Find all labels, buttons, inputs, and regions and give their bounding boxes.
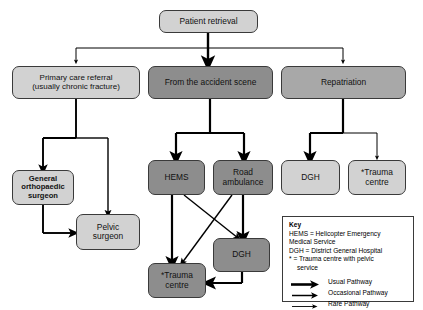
node-label: DGH xyxy=(232,250,251,259)
node-label: General orthopaedic surgeon xyxy=(21,175,64,201)
node-label: Pelvic surgeon xyxy=(93,223,123,242)
edge-accident-scene-split xyxy=(176,99,244,158)
key-line-hems-cont: Medical Service xyxy=(289,238,408,247)
flowchart-canvas: Patient retrieval Primary care referral … xyxy=(0,0,423,310)
node-label-line3: surgeon xyxy=(28,191,58,200)
node-dgh-repatriation[interactable]: DGH xyxy=(281,160,340,195)
key-line-asterisk-cont: service xyxy=(289,264,408,273)
node-hems[interactable]: HEMS xyxy=(148,160,205,195)
node-label-line2: centre xyxy=(165,280,188,290)
node-label: HEMS xyxy=(164,173,188,182)
edge-distributor-bar xyxy=(76,48,343,62)
legend-row-usual: Usual Pathway xyxy=(289,276,408,287)
node-label: *Trauma centre xyxy=(361,168,393,187)
node-label-line2: centre xyxy=(365,177,388,187)
node-repatriation[interactable]: Repatriation xyxy=(281,66,406,99)
legend-row-occasional: Occasional Pathway xyxy=(289,287,408,298)
node-label: Patient retrieval xyxy=(179,17,237,26)
node-dgh-lower[interactable]: DGH xyxy=(213,238,270,272)
node-pelvic-surgeon[interactable]: Pelvic surgeon xyxy=(76,214,140,250)
usual-pathway-arrow-icon xyxy=(289,276,323,287)
legend-label-usual: Usual Pathway xyxy=(323,278,372,285)
node-label: *Trauma centre xyxy=(161,271,193,290)
node-trauma-centre-lower[interactable]: *Trauma centre xyxy=(148,263,206,298)
node-road-ambulance[interactable]: Road ambulance xyxy=(213,160,273,195)
key-line-asterisk: * = Trauma centre with pelvic xyxy=(289,255,408,264)
node-trauma-centre-repatriation[interactable]: *Trauma centre xyxy=(348,160,406,195)
node-patient-retrieval[interactable]: Patient retrieval xyxy=(159,10,258,33)
node-from-the-accident-scene[interactable]: From the accident scene xyxy=(148,66,273,99)
legend-rows: Usual Pathway Occasional Pathway xyxy=(289,276,408,309)
node-label: From the accident scene xyxy=(165,78,257,87)
key-line-dgh: DGH = District General Hospital xyxy=(289,247,408,256)
node-label-line1: Primary care referral xyxy=(40,73,113,82)
node-label: Repatriation xyxy=(321,78,366,87)
key-line-hems: HEMS = Helicopter Emergency xyxy=(289,230,408,239)
key-legend-box: Key HEMS = Helicopter Emergency Medical … xyxy=(282,216,414,302)
node-label-line2: (usually chronic fracture) xyxy=(32,82,120,91)
key-title: Key xyxy=(289,221,408,229)
edge-repatriation-split xyxy=(310,99,377,158)
rare-pathway-arrow-icon xyxy=(289,298,323,309)
node-label: Road ambulance xyxy=(223,168,264,187)
node-label: DGH xyxy=(301,173,320,182)
node-label: Primary care referral (usually chronic f… xyxy=(32,74,120,92)
occasional-pathway-arrow-icon xyxy=(289,287,323,298)
node-label-line2: surgeon xyxy=(93,231,123,241)
legend-label-rare: Rare Pathway xyxy=(323,300,369,307)
node-general-orthopaedic-surgeon[interactable]: General orthopaedic surgeon xyxy=(12,170,74,205)
node-primary-care-referral[interactable]: Primary care referral (usually chronic f… xyxy=(12,66,140,99)
legend-label-occasional: Occasional Pathway xyxy=(323,289,388,296)
edge-hems-to-dgh xyxy=(184,195,238,238)
edge-dgh-to-trauma xyxy=(209,272,242,283)
node-label-line2: ambulance xyxy=(223,177,264,187)
edge-general-ortho-to-pelvic xyxy=(43,205,74,233)
legend-row-rare: Rare Pathway xyxy=(289,298,408,309)
